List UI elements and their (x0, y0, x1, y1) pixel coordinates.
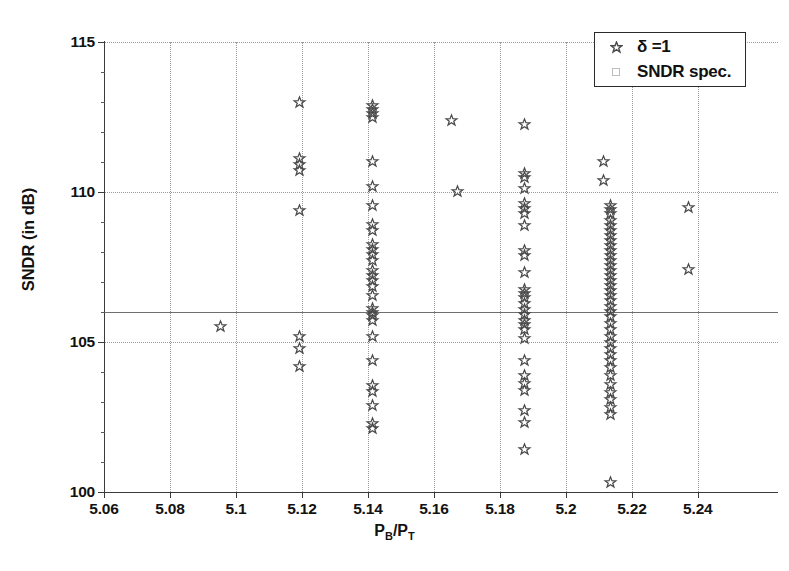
x-tick-label-5.22: 5.22 (617, 500, 646, 518)
square-icon (595, 68, 637, 76)
data-point (519, 304, 530, 315)
x-tick-label-5.18: 5.18 (485, 500, 514, 518)
y-tick-minor-108 (101, 252, 105, 253)
gridline-x-5.16 (434, 42, 436, 492)
data-point (519, 385, 530, 396)
data-point (605, 324, 616, 335)
y-tick-115 (98, 42, 104, 43)
data-point (598, 156, 609, 167)
data-point (605, 235, 616, 246)
gridline-y-105 (104, 342, 778, 344)
star-icon (595, 41, 637, 54)
x-axis-title-sub2: T (408, 530, 415, 542)
data-point (519, 245, 530, 256)
x-axis-title-slash: /P (393, 522, 408, 539)
data-point (519, 292, 530, 303)
y-tick-minor-111 (101, 162, 105, 163)
data-point (605, 230, 616, 241)
data-point (605, 245, 616, 256)
y-tick-label-115: 115 (71, 33, 95, 51)
data-point (605, 290, 616, 301)
data-point (605, 200, 616, 211)
legend-item-delta: δ =1 (595, 34, 747, 60)
data-point (605, 402, 616, 413)
data-point (519, 324, 530, 335)
data-point (605, 285, 616, 296)
x-tick-label-5.08: 5.08 (155, 500, 184, 518)
data-point (605, 280, 616, 291)
x-tick-label-5.1: 5.1 (226, 500, 247, 518)
x-tick-label-5.16: 5.16 (419, 500, 448, 518)
data-point (519, 208, 530, 219)
y-tick-minor-101 (101, 462, 105, 463)
x-tick-label-5.12: 5.12 (287, 500, 316, 518)
data-point (605, 240, 616, 251)
data-point (519, 309, 530, 320)
data-point (519, 405, 530, 416)
gridline-x-5.1 (236, 42, 238, 492)
legend-item-sndr-spec: SNDR spec. (595, 59, 747, 85)
gridline-x-5.14 (368, 42, 370, 492)
gridline-x-5.08 (170, 42, 172, 492)
x-axis-title-sub1: B (385, 530, 393, 542)
data-point (519, 355, 530, 366)
gridline-y-110 (104, 192, 778, 194)
legend-label-sndr-spec: SNDR spec. (637, 62, 731, 82)
x-tick-label-5.14: 5.14 (353, 500, 382, 518)
data-point (605, 370, 616, 381)
y-tick-100 (98, 492, 104, 493)
data-point (605, 255, 616, 266)
x-tick-5.1 (236, 492, 237, 498)
x-tick-5.22 (632, 492, 633, 498)
data-point (519, 378, 530, 389)
data-point (605, 362, 616, 373)
data-point (605, 208, 616, 219)
data-point (605, 215, 616, 226)
x-tick-5.14 (368, 492, 369, 498)
legend-label-delta: δ =1 (637, 37, 671, 57)
data-point (605, 379, 616, 390)
data-point (519, 444, 530, 455)
data-point (519, 298, 530, 309)
data-point (605, 343, 616, 354)
gridline-x-5.12 (302, 42, 304, 492)
data-point (519, 315, 530, 326)
data-point (519, 319, 530, 330)
data-point (519, 168, 530, 179)
data-point (605, 301, 616, 312)
y-tick-label-105: 105 (70, 333, 95, 351)
y-tick-minor-107 (101, 282, 105, 283)
gridline-x-5.2 (566, 42, 568, 492)
data-point (519, 250, 530, 261)
y-tick-minor-103 (101, 402, 105, 403)
y-axis-tick-labels: 100105110115 (0, 0, 95, 571)
x-tick-5.2 (566, 492, 567, 498)
data-point (446, 115, 457, 126)
data-point (605, 275, 616, 286)
data-point (519, 119, 530, 130)
x-tick-label-5.24: 5.24 (683, 500, 712, 518)
x-tick-5.06 (104, 492, 105, 498)
data-point (605, 220, 616, 231)
data-point (605, 394, 616, 405)
gridline-x-5.24 (698, 42, 700, 492)
x-axis-title-p1: P (374, 522, 385, 539)
y-tick-label-110: 110 (71, 183, 95, 201)
scatter-plot-figure: 5.065.085.15.125.145.165.185.25.225.24 1… (0, 0, 789, 571)
data-point (605, 270, 616, 281)
data-point (605, 409, 616, 420)
data-point (519, 203, 530, 214)
x-tick-5.18 (500, 492, 501, 498)
y-tick-minor-113 (101, 102, 105, 103)
data-point (605, 318, 616, 329)
data-point (605, 331, 616, 342)
y-tick-minor-109 (101, 222, 105, 223)
data-point (519, 370, 530, 381)
y-tick-minor-102 (101, 432, 105, 433)
data-point (215, 321, 226, 332)
data-point (605, 349, 616, 360)
data-point (605, 265, 616, 276)
data-point (605, 355, 616, 366)
x-tick-5.24 (698, 492, 699, 498)
data-point (605, 477, 616, 488)
